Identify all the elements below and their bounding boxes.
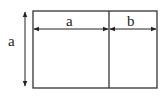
diagram-canvas: a a b: [0, 0, 164, 97]
outer-rectangle: [33, 11, 157, 88]
label-square-width: a: [66, 13, 73, 29]
label-left-height: a: [8, 33, 15, 49]
label-rect-width: b: [127, 13, 135, 29]
